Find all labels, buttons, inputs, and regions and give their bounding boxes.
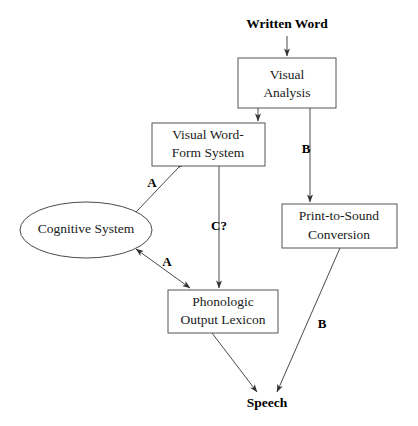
edge-label-a-lower: A	[162, 254, 172, 269]
edge-phonologic-output-lexicon-to-speech	[212, 333, 257, 392]
visual-analysis-label-line2: Analysis	[263, 85, 310, 100]
print-to-sound-conversion-label-line2: Conversion	[308, 227, 370, 242]
node-print-to-sound-conversion: Print-to-Sound Conversion	[282, 204, 397, 248]
edge-label-c-question: C?	[211, 218, 227, 233]
edge-cognitive-system-to-phonologic-output-lexicon: A	[136, 249, 190, 288]
speech-label: Speech	[247, 395, 288, 410]
edge-visual-analysis-to-print-to-sound-conversion: B	[302, 108, 311, 202]
edge-visual-word-form-system-to-cognitive-system: A	[137, 168, 178, 211]
visual-analysis-box	[238, 58, 336, 108]
cognitive-system-label: Cognitive System	[38, 221, 135, 236]
diagram-canvas: B A A C? B Written Word	[0, 0, 418, 426]
phonologic-output-lexicon-label-line2: Output Lexicon	[180, 312, 265, 327]
node-written-word: Written Word	[246, 16, 328, 31]
edge-label-a-upper: A	[147, 175, 157, 190]
node-visual-analysis: Visual Analysis	[238, 58, 336, 108]
node-visual-word-form-system: Visual Word- Form System	[152, 123, 265, 166]
edge-label-b-lower: B	[318, 316, 327, 331]
edge-visual-word-form-system-to-phonologic-output-lexicon: C?	[211, 166, 227, 288]
edge-label-b-upper: B	[302, 141, 311, 156]
visual-word-form-system-label-line1: Visual Word-	[172, 127, 244, 142]
visual-word-form-system-label-line2: Form System	[172, 145, 245, 160]
written-word-label: Written Word	[246, 16, 328, 31]
visual-analysis-label-line1: Visual	[270, 67, 305, 82]
edge-print-to-sound-conversion-to-speech: B	[277, 248, 340, 392]
diagram-svg: B A A C? B Written Word	[0, 0, 418, 426]
phonologic-output-lexicon-label-line1: Phonologic	[192, 294, 254, 309]
node-phonologic-output-lexicon: Phonologic Output Lexicon	[168, 290, 278, 333]
node-cognitive-system: Cognitive System	[20, 202, 152, 258]
print-to-sound-conversion-label-line1: Print-to-Sound	[299, 208, 380, 223]
node-speech: Speech	[247, 395, 288, 410]
